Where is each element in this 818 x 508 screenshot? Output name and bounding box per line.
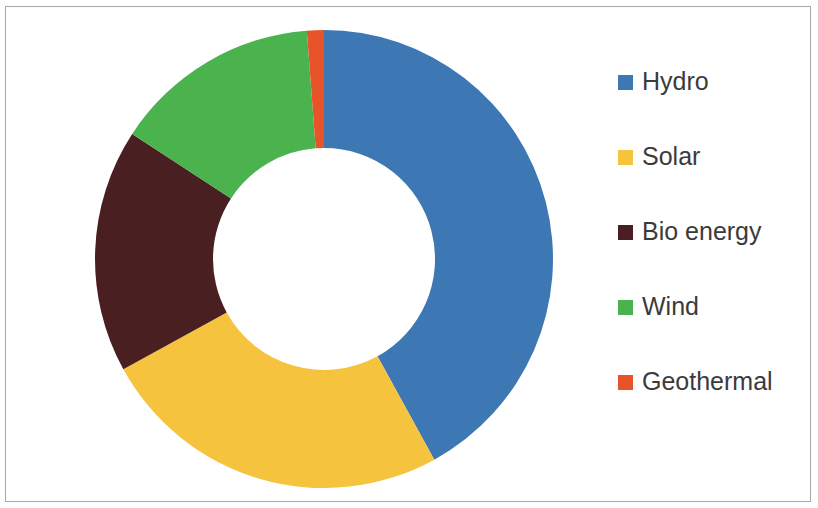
legend-item-label: Wind — [642, 291, 699, 321]
legend-item-solar[interactable]: Solar — [618, 141, 818, 216]
legend-swatch-icon — [618, 150, 633, 165]
legend-item-geothermal[interactable]: Geothermal — [618, 366, 818, 441]
donut-chart-area — [0, 0, 620, 508]
legend-item-label: Bio energy — [642, 216, 762, 246]
legend-item-bio-energy[interactable]: Bio energy — [618, 216, 818, 291]
legend-swatch-icon — [618, 225, 633, 240]
donut-slice-group — [95, 30, 553, 488]
legend-swatch-icon — [618, 375, 633, 390]
legend-item-wind[interactable]: Wind — [618, 291, 818, 366]
chart-screenshot: Hydro Solar Bio energy Wind Geothermal — [0, 0, 818, 508]
legend-item-label: Geothermal — [642, 366, 773, 396]
legend-item-label: Hydro — [642, 66, 709, 96]
legend-item-hydro[interactable]: Hydro — [618, 66, 818, 141]
legend-swatch-icon — [618, 300, 633, 315]
chart-legend: Hydro Solar Bio energy Wind Geothermal — [618, 66, 818, 441]
legend-item-label: Solar — [642, 141, 700, 171]
donut-chart — [0, 0, 620, 508]
legend-swatch-icon — [618, 75, 633, 90]
